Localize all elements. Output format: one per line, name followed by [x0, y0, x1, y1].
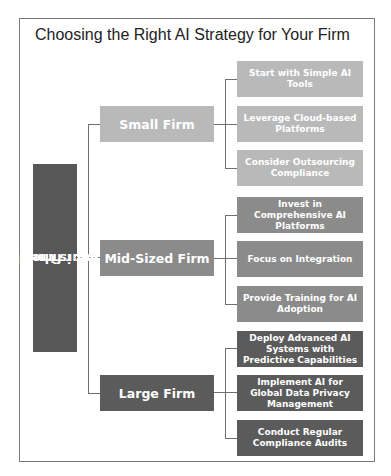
leaf-large-2: Implement AI for Global Data Privacy Man…	[237, 375, 363, 411]
leaf-mid-3: Provide Training for AI Adoption	[237, 286, 363, 322]
leaf-mid-1: Invest in Comprehensive AI Platforms	[237, 197, 363, 233]
diagram-title: Choosing the Right AI Strategy for Your …	[35, 26, 350, 44]
leaf-large-3: Conduct Regular Compliance Audits	[237, 420, 363, 456]
connector	[225, 348, 237, 349]
branch-large-firm: Large Firm	[100, 375, 214, 411]
leaf-small-1: Start with Simple AI Tools	[237, 61, 363, 97]
connector	[225, 215, 237, 216]
connector	[225, 79, 237, 80]
leaf-large-1: Deploy Advanced AI Systems with Predicti…	[237, 331, 363, 367]
root-question-label: What is the size ofyour firm?	[40, 192, 70, 323]
connector	[88, 124, 100, 125]
connector	[225, 168, 237, 169]
leaf-small-3: Consider Outsourcing Compliance	[237, 150, 363, 186]
connector	[225, 438, 237, 439]
connector	[225, 79, 226, 168]
branch-mid-sized-firm: Mid-Sized Firm	[100, 240, 214, 276]
leaf-small-2: Leverage Cloud-based Platforms	[237, 106, 363, 142]
branch-small-firm: Small Firm	[100, 106, 214, 142]
leaf-mid-2: Focus on Integration	[237, 241, 363, 277]
connector	[225, 304, 237, 305]
connector	[225, 215, 226, 304]
root-question-node: What is the size ofyour firm?	[33, 164, 77, 352]
connector	[225, 348, 226, 438]
connector	[88, 393, 100, 394]
